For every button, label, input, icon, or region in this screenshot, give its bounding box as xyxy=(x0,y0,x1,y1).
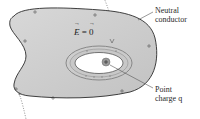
charge-label: Point charge q xyxy=(155,85,182,103)
diagram-canvas: E = 0 Neutral conductor Point charge q xyxy=(0,0,200,119)
charge-label-line-2: charge q xyxy=(155,94,182,103)
conductor-label: Neutral conductor xyxy=(155,6,187,24)
field-equation: E = 0 xyxy=(74,27,94,37)
conductor-label-line-2: conductor xyxy=(155,15,187,24)
charge-label-line-1: Point xyxy=(155,85,182,94)
cavity xyxy=(75,53,123,74)
conductor-label-line-1: Neutral xyxy=(155,6,187,15)
conductor-leader-line xyxy=(138,12,153,20)
gaussian-surface-exit xyxy=(20,96,26,119)
